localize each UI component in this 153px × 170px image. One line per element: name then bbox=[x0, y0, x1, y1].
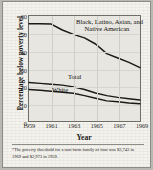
x-axis-tick-label: 1969 bbox=[136, 123, 148, 129]
x-axis-tick-label: 1961 bbox=[46, 123, 58, 129]
y-axis-tick-label: 60 bbox=[21, 13, 27, 20]
y-gridline bbox=[29, 87, 140, 88]
series-line-white bbox=[29, 90, 140, 104]
x-axis-title: Year bbox=[21, 133, 147, 142]
x-axis-tick-label: 1959 bbox=[23, 123, 35, 129]
y-gridline bbox=[29, 34, 140, 35]
x-gridline bbox=[52, 16, 53, 121]
series-label-minority: Black, Latino, Asian, andNative American bbox=[76, 18, 138, 33]
poverty-chart-figure: Percentage below poverty level 010203040… bbox=[3, 2, 150, 167]
x-axis-tick-label: 1967 bbox=[113, 123, 125, 129]
y-gridline bbox=[29, 70, 140, 71]
y-axis-tick-label: 30 bbox=[21, 66, 27, 73]
y-axis-tick-label: 50 bbox=[21, 30, 27, 37]
series-label-white: White bbox=[52, 86, 68, 93]
footnote: *The poverty threshold for a non-farm fa… bbox=[12, 144, 144, 160]
y-gridline bbox=[29, 52, 140, 53]
x-axis-tick-label: 1963 bbox=[68, 123, 80, 129]
y-gridline bbox=[29, 105, 140, 106]
series-label-total: Total bbox=[68, 73, 81, 80]
y-axis-tick-label: 10 bbox=[21, 102, 27, 109]
plot-area: 0102030405060195919611963196519671969Bla… bbox=[28, 15, 141, 122]
y-axis-tick-label: 40 bbox=[21, 48, 27, 55]
y-axis-tick-label: 20 bbox=[21, 84, 27, 91]
x-axis-tick-label: 1965 bbox=[91, 123, 103, 129]
